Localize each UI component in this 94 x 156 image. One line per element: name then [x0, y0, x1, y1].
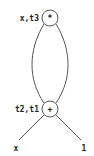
- multiply-operator: *: [48, 14, 53, 23]
- expression-dag: * x,t3 + t2,t1 x 1: [0, 0, 94, 156]
- edge-left-arc: [32, 24, 44, 103]
- leaf-1: 1: [82, 144, 87, 153]
- edge-right-arc: [56, 24, 68, 103]
- plus-operator: +: [48, 105, 53, 114]
- node-top-label: x,t3: [20, 14, 39, 23]
- edge-to-x: [19, 115, 44, 140]
- node-bottom-label: t2,t1: [15, 105, 39, 114]
- leaf-x: x: [14, 144, 19, 153]
- node-top: * x,t3: [20, 10, 58, 26]
- edge-to-1: [56, 115, 81, 140]
- node-bottom: + t2,t1: [15, 101, 58, 117]
